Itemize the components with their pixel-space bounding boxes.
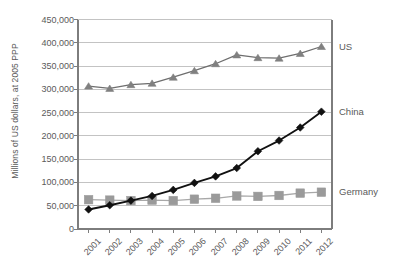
x-tick-label: 2006	[187, 236, 208, 257]
chart-container: Millions of US dollars, at 2005 PPP 050,…	[0, 0, 406, 278]
x-tick-label: 2001	[81, 236, 102, 257]
x-tick-label: 2011	[294, 236, 315, 257]
series-label-germany: Germany	[339, 186, 378, 197]
x-tick-label: 2002	[103, 236, 124, 257]
series-label-china: China	[339, 106, 364, 117]
x-tick-label: 2007	[208, 236, 229, 257]
x-tick-label: 2010	[272, 236, 293, 257]
x-tick-label: 2008	[230, 236, 251, 257]
x-tick-label: 2012	[314, 236, 335, 257]
x-tick-label: 2003	[124, 236, 145, 257]
x-tick-label: 2005	[166, 236, 187, 257]
x-tick-label: 2004	[145, 236, 166, 257]
series-label-us: US	[339, 41, 352, 52]
x-tick-label: 2009	[251, 236, 272, 257]
